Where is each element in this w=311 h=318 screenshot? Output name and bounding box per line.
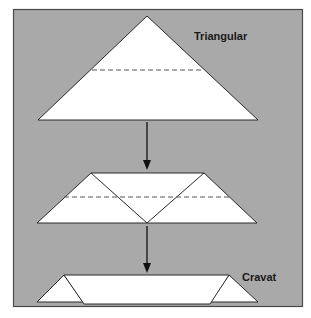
label-cravat: Cravat	[242, 271, 277, 283]
cravat-bandage-shape	[37, 275, 258, 304]
label-triangular: Triangular	[194, 30, 248, 42]
bandage-folding-diagram: Triangular Cravat	[0, 0, 311, 318]
